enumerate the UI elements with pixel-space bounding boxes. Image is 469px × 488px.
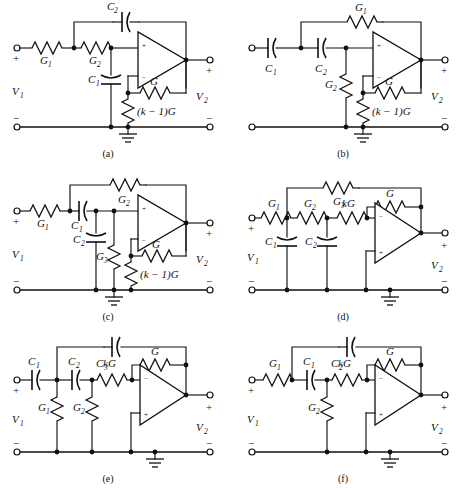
panel-caption-b: (b) [337,148,349,160]
output-minus-mark: − [206,112,212,124]
output-terminal-positive [207,220,213,226]
output-port-label-sub: 2 [204,427,208,436]
opamp-noninverting-input-label: + [377,42,381,50]
label-shunt-capacitor-2: C [73,233,81,245]
label-feedback-conductance: G [150,75,158,87]
node-junction [90,450,95,455]
label-series-capacitor-1-sub: 1 [36,361,40,370]
circuit-panel-c: G 2 G 1 C 1 C 2 G 3 + − [0,163,234,326]
input-terminal-negative [14,287,20,293]
output-plus-mark: + [441,239,447,251]
input-port-label-sub: 1 [255,257,259,266]
label-input-conductance-kg: kG [103,357,116,369]
label-shunt-capacitor-1: C [88,73,96,85]
circuit-panel-e: C 3 G C 1 C 2 kG G 1 [0,325,234,488]
panel-caption-c: (c) [102,311,113,323]
label-feedback-conductance-2: G [118,193,126,205]
output-plus-mark: + [206,227,212,239]
circuit-panel-d: G 3 G G 1 G 2 kG C 1 [235,163,469,326]
label-series-capacitor-2-sub: 2 [323,68,327,77]
opamp-inverting-input-label: − [379,213,383,221]
input-port-label-sub: 1 [20,254,24,263]
label-shunt-capacitor-1: C [265,235,273,247]
label-series-capacitor-2: C [68,355,76,367]
output-port-label: V [196,421,204,433]
output-port-label: V [196,253,204,265]
output-terminal-positive [442,230,448,236]
panel-caption-f: (f) [338,473,348,485]
label-feedback-conductance: G [386,187,394,199]
opamp-noninverting-input-label: + [144,411,148,419]
circuit-panel-a: C 2 G 1 G 2 C 1 + − [0,0,234,163]
label-series-conductance-2: G [89,54,97,66]
input-minus-mark: − [13,275,19,287]
input-terminal-positive [14,208,20,214]
node-junction [419,363,424,368]
node-junction [72,46,77,51]
node-junction [325,288,330,293]
output-terminal-negative [442,287,448,293]
output-port-label: V [431,421,439,433]
opamp-noninverting-input-label: + [379,411,383,419]
input-terminal-negative [249,124,255,130]
input-terminal-negative [249,449,255,455]
node-junction [94,288,99,293]
label-feedback-conductance-2-sub: 2 [126,199,130,208]
node-junction [184,363,189,368]
output-terminal-negative [207,287,213,293]
input-terminal-positive [249,215,255,221]
panel-caption-e: (e) [102,473,113,485]
input-terminal-negative [14,449,20,455]
input-terminal-positive [249,377,255,383]
opamp-inverting-input-label: − [377,74,381,82]
label-series-conductance-1: G [268,197,276,209]
label-feedback-conductance: G [152,238,160,250]
output-plus-mark: + [206,401,212,413]
label-series-conductance-2: G [304,197,312,209]
input-terminal-positive [14,45,20,51]
node-junction [130,378,135,383]
label-shunt-conductance-2-sub: 2 [81,407,85,416]
opamp-inverting-input-label: − [142,74,146,82]
output-terminal-positive [442,57,448,63]
output-terminal-positive [442,392,448,398]
output-terminal-negative [207,449,213,455]
output-minus-mark: − [206,275,212,287]
output-port-label-sub: 2 [204,96,208,105]
input-plus-mark: + [13,215,19,227]
label-series-conductance-1-sub: 1 [48,60,52,69]
input-minus-mark: − [13,112,19,124]
label-series-capacitor-1-sub: 1 [273,68,277,77]
output-port-label: V [431,259,439,271]
input-plus-mark: + [248,222,254,234]
label-shunt-conductance-2: G [325,78,333,90]
node-junction [365,378,370,383]
output-minus-mark: − [441,275,447,287]
label-shunt-conductance-3-sub: 3 [103,256,108,265]
label-shunt-capacitor-2-sub: 2 [81,239,85,248]
output-port-label: V [196,90,204,102]
label-input-conductance-kg: kG [342,197,355,209]
label-shunt-conductance-1-sub: 1 [46,407,50,416]
label-shunt-conductance-2-sub: 2 [333,84,337,93]
node-junction [109,125,114,130]
output-plus-mark: + [441,64,447,76]
output-port-label-sub: 2 [439,265,443,274]
output-plus-mark: + [206,64,212,76]
label-series-conductance-1-sub: 1 [45,223,49,232]
label-series-capacitor-1: C [265,62,273,74]
output-port-label: V [431,90,439,102]
input-terminal-positive [14,377,20,383]
label-shunt-capacitor-2-sub: 2 [313,241,317,250]
output-terminal-negative [442,124,448,130]
input-port-label: V [247,413,255,425]
circuit-panel-b: G 1 C 1 C 2 G 2 + − [235,0,469,163]
node-junction [325,450,330,455]
node-junction [285,288,290,293]
circuit-figure: C 2 G 1 G 2 C 1 + − [0,0,469,488]
input-port-label: V [12,248,20,260]
input-plus-mark: + [13,384,19,396]
input-plus-mark: + [13,52,19,64]
label-gain-setting-conductance: (k − 1)G [137,105,176,118]
output-port-label-sub: 2 [439,96,443,105]
